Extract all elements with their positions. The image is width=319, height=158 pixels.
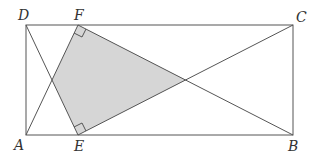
label-b: B (288, 139, 298, 153)
label-f: F (74, 8, 84, 22)
geometry-diagram: D F C A E B (0, 0, 319, 158)
shaded-region (52, 25, 186, 135)
label-c: C (296, 10, 307, 24)
label-e: E (74, 139, 84, 153)
label-d: D (18, 8, 29, 22)
label-a: A (14, 138, 24, 152)
diagram-canvas (0, 0, 319, 158)
